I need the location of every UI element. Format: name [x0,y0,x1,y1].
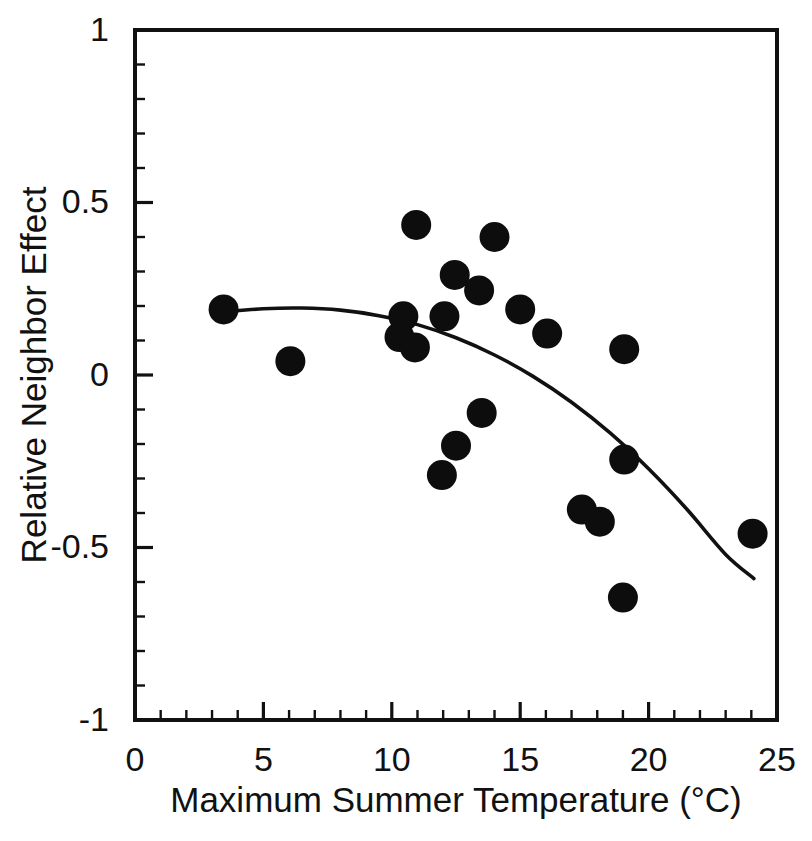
y-axis-title: Relative Neighbor Effect [14,186,53,563]
y-tick-label: -0.5 [50,527,109,565]
data-point [609,445,639,475]
x-axis-title: Maximum Summer Temperature (°C) [170,780,742,819]
data-point [275,346,305,376]
x-axis-major-ticks [135,702,777,720]
data-point [400,332,430,362]
x-axis-tick-labels: 0510152025 [126,740,796,778]
y-tick-label: 0 [90,355,109,393]
x-tick-label: 15 [501,740,539,778]
x-tick-label: 25 [758,740,796,778]
plot-canvas: -1-0.500.51 0510152025 Maximum Summer Te… [0,0,812,841]
scatter-plot-figure: -1-0.500.51 0510152025 Maximum Summer Te… [0,0,812,841]
x-tick-label: 10 [373,740,411,778]
data-point [608,583,638,613]
data-point [532,319,562,349]
data-point [401,210,431,240]
data-point [441,431,471,461]
x-tick-label: 0 [126,740,145,778]
axis-frame [135,30,777,720]
x-tick-label: 20 [630,740,668,778]
data-points-group [209,210,768,613]
data-point [467,398,497,428]
data-point [427,460,457,490]
data-point [738,519,768,549]
data-point [609,334,639,364]
data-point [209,294,239,324]
data-point [505,294,535,324]
y-axis-tick-labels: -1-0.500.51 [50,10,109,738]
data-point [429,301,459,331]
y-tick-label: 1 [90,10,109,48]
data-point [480,222,510,252]
data-point [464,275,494,305]
y-tick-label: -1 [79,700,109,738]
fit-curve-line [225,308,754,579]
x-tick-label: 5 [254,740,273,778]
data-point [585,507,615,537]
y-tick-label: 0.5 [62,182,109,220]
